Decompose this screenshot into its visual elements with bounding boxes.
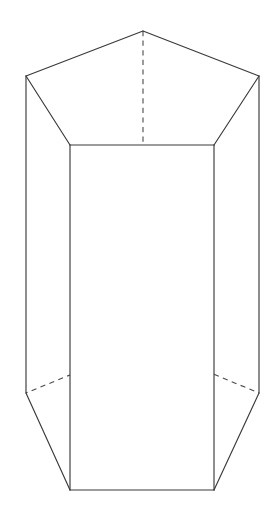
left-face xyxy=(26,76,70,490)
front-face-group xyxy=(70,145,214,490)
figure-canvas xyxy=(0,0,274,511)
right-face xyxy=(214,76,259,490)
pentagonal-prism-drawing xyxy=(0,0,274,511)
front-face xyxy=(70,145,214,490)
